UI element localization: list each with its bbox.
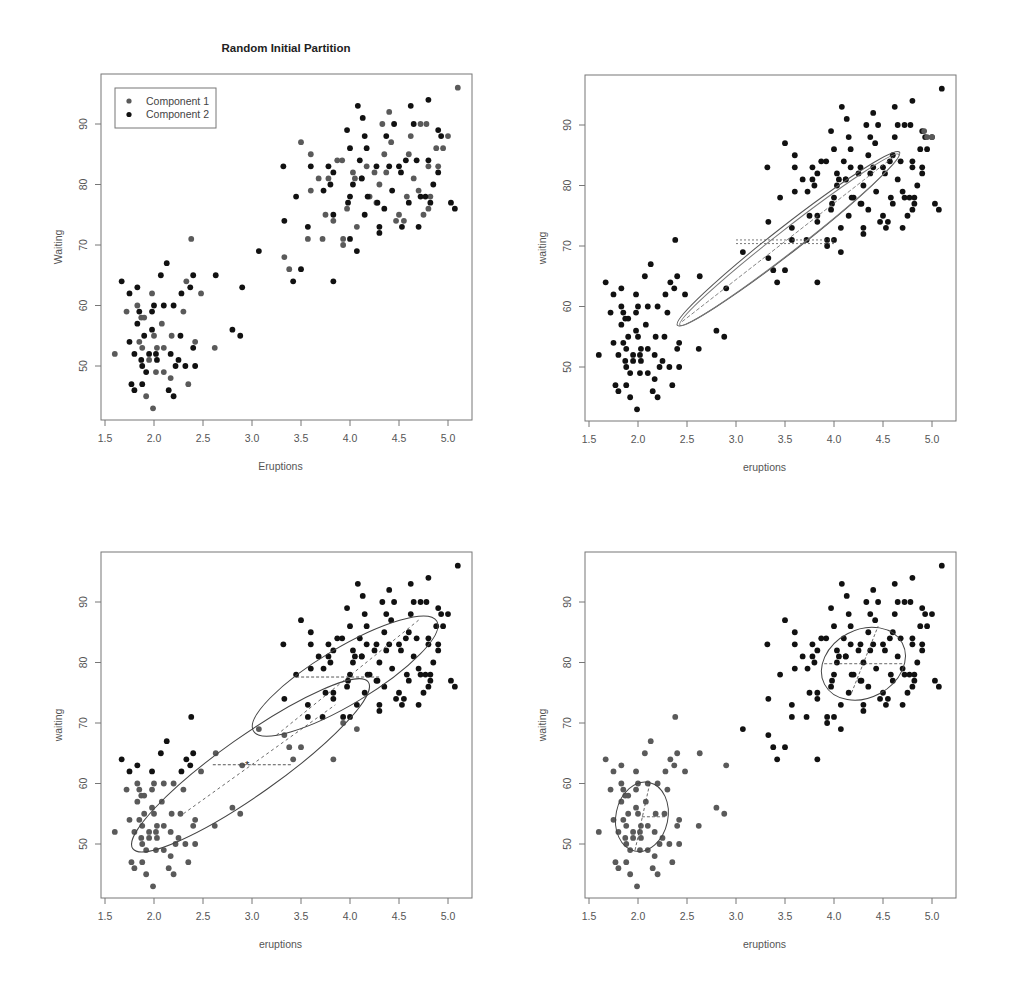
data-point	[812, 660, 818, 666]
data-point	[181, 787, 187, 793]
data-point	[386, 587, 392, 593]
data-point	[655, 304, 661, 310]
data-point	[919, 171, 925, 177]
data-point	[377, 224, 383, 230]
data-point	[347, 145, 353, 151]
data-point	[828, 128, 834, 134]
data-point	[634, 406, 640, 412]
data-point	[124, 309, 130, 315]
data-point	[844, 593, 850, 599]
data-point	[298, 139, 304, 145]
data-point	[364, 623, 370, 629]
data-point	[908, 122, 914, 128]
data-point	[613, 382, 619, 388]
data-point	[344, 206, 350, 212]
data-point	[344, 605, 350, 611]
data-point	[611, 769, 617, 775]
data-point	[169, 333, 175, 339]
data-point	[134, 781, 140, 787]
data-point	[873, 666, 879, 672]
data-point	[792, 629, 798, 635]
data-point	[136, 787, 142, 793]
data-point	[406, 629, 412, 635]
data-point	[911, 201, 917, 207]
data-point	[230, 805, 236, 811]
data-point	[192, 339, 198, 345]
data-point	[190, 750, 196, 756]
data-point	[770, 744, 776, 750]
data-point	[800, 177, 806, 183]
data-point	[141, 793, 147, 799]
data-point	[440, 145, 446, 151]
data-point	[873, 189, 879, 195]
data-point	[398, 170, 404, 176]
x-tick-label: 4.0	[343, 910, 358, 922]
data-point	[848, 641, 854, 647]
data-point	[354, 248, 360, 254]
data-point	[616, 865, 622, 871]
data-point	[887, 635, 893, 641]
data-point	[663, 292, 669, 298]
data-point	[230, 327, 236, 333]
major-axis	[682, 156, 895, 322]
data-point	[622, 358, 628, 364]
data-point	[166, 387, 172, 393]
data-point	[848, 164, 854, 170]
data-point	[613, 859, 619, 865]
data-point	[623, 841, 629, 847]
x-tick-label: 2.0	[147, 432, 162, 444]
data-point	[620, 817, 626, 823]
data-point	[364, 145, 370, 151]
data-point	[181, 309, 187, 315]
data-point	[352, 654, 358, 660]
data-point	[846, 611, 852, 617]
data-point	[290, 278, 296, 284]
data-point	[676, 340, 682, 346]
data-point	[682, 769, 688, 775]
data-point	[634, 883, 640, 889]
data-point	[696, 346, 702, 352]
data-point	[298, 266, 304, 272]
y-tick-label: 70	[561, 240, 573, 252]
data-point	[672, 237, 678, 243]
data-point	[406, 678, 412, 684]
data-point	[190, 823, 196, 829]
data-point	[814, 219, 820, 225]
data-point	[176, 357, 182, 363]
data-point	[393, 696, 399, 702]
data-point	[929, 611, 935, 617]
data-point	[625, 811, 631, 817]
data-point	[149, 769, 155, 775]
data-point	[179, 291, 185, 297]
y-tick-label: 50	[561, 361, 573, 373]
data-point	[146, 351, 152, 357]
data-point	[867, 611, 873, 617]
x-tick-label: 4.0	[343, 432, 358, 444]
data-point	[618, 762, 624, 768]
data-point	[633, 310, 639, 316]
data-point	[936, 684, 942, 690]
y-axis-label: waiting	[52, 708, 64, 742]
data-point	[190, 345, 196, 351]
data-point	[396, 690, 402, 696]
data-point	[859, 201, 865, 207]
x-tick-label: 5.0	[441, 910, 456, 922]
data-point	[161, 345, 167, 351]
data-point	[381, 684, 387, 690]
data-point	[355, 103, 361, 109]
data-point	[132, 351, 138, 357]
data-point	[119, 756, 125, 762]
x-axis-label: Eruptions	[258, 460, 302, 472]
data-point	[414, 635, 420, 641]
data-point	[426, 157, 432, 163]
data-point	[281, 696, 287, 702]
data-point	[347, 194, 353, 200]
data-point	[666, 364, 672, 370]
data-point	[936, 207, 942, 213]
data-point	[914, 183, 920, 189]
data-point	[213, 272, 219, 278]
data-point	[892, 104, 898, 110]
data-point	[665, 787, 671, 793]
data-point	[161, 781, 167, 787]
data-point	[814, 648, 820, 654]
